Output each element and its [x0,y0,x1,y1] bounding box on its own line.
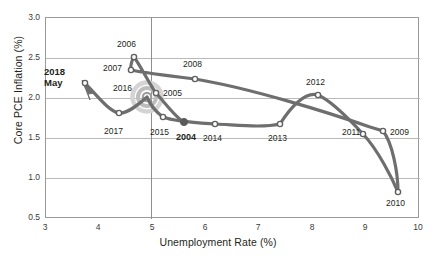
annotation-2018-line2: May [44,77,65,88]
label-2011: 2011 [342,128,360,137]
point-2007 [128,67,133,72]
label-2005: 2005 [163,89,182,98]
label-2012: 2012 [306,78,325,87]
point-2005 [153,90,158,95]
point-2011 [360,131,365,136]
point-2014 [212,121,217,126]
point-2012 [315,92,320,97]
point-2013 [277,121,282,126]
point-2004 [180,118,187,125]
phillips-curve-chart: Core PCE Inflation (%) Unemployment Rate… [0,0,436,277]
label-2016: 2016 [113,84,132,93]
label-2014: 2014 [203,134,222,143]
label-2017: 2017 [104,127,123,136]
label-2015: 2015 [150,128,169,137]
label-2008: 2008 [183,60,202,69]
label-2006: 2006 [117,40,136,49]
label-2004: 2004 [176,133,196,142]
point-2017 [116,110,121,115]
label-2013: 2013 [268,134,287,143]
label-2009: 2009 [390,128,409,137]
point-2015 [160,114,165,119]
label-2010: 2010 [386,199,405,208]
point-2009 [380,128,385,133]
point-2010 [395,189,400,194]
annotation-2018-line1: 2018 [44,66,65,77]
annotation-2018-may: 2018 May [44,66,65,88]
label-2007: 2007 [103,64,122,73]
point-2006 [131,54,136,59]
point-2008 [192,76,197,81]
point-2018-may [82,80,87,85]
